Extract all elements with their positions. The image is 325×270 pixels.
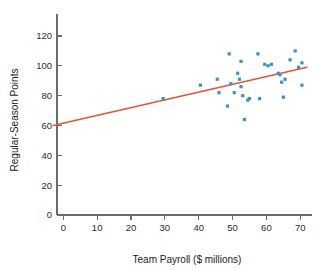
x-tick-label-60: 60: [261, 222, 272, 233]
axes: [57, 14, 312, 215]
data-point-19: [266, 64, 269, 67]
x-tick-label-70: 70: [295, 222, 306, 233]
y-tick-label-80: 80: [41, 90, 52, 101]
chart-canvas: 020406080100120010203040506070 Team Payr…: [0, 0, 325, 270]
data-point-22: [278, 73, 281, 76]
scatter-plot-figure: 020406080100120010203040506070 Team Payr…: [0, 0, 325, 270]
x-axis-title: Team Payroll ($ millions): [133, 254, 242, 265]
data-point-10: [239, 60, 242, 63]
data-point-1: [199, 84, 202, 87]
data-point-0: [162, 97, 165, 100]
data-point-29: [300, 61, 303, 64]
y-tick-label-40: 40: [41, 150, 52, 161]
y-tick-label-20: 20: [41, 180, 52, 191]
data-point-6: [229, 82, 232, 85]
data-points: [162, 49, 304, 121]
data-point-16: [256, 52, 259, 55]
data-point-13: [243, 118, 246, 121]
data-point-12: [241, 94, 244, 97]
y-tick-label-120: 120: [36, 30, 52, 41]
data-point-30: [300, 84, 303, 87]
x-tick-label-40: 40: [193, 222, 204, 233]
data-point-26: [288, 58, 291, 61]
data-point-15: [248, 97, 251, 100]
y-axis-title: Regular-Season Points: [9, 69, 20, 172]
data-point-2: [216, 78, 219, 81]
x-tick-label-10: 10: [92, 222, 103, 233]
data-point-9: [238, 78, 241, 81]
data-point-5: [228, 52, 231, 55]
data-point-11: [239, 85, 242, 88]
x-tick-label-30: 30: [160, 222, 171, 233]
axis-tick-labels: 020406080100120010203040506070: [36, 30, 305, 233]
data-point-24: [282, 96, 285, 99]
data-point-20: [270, 63, 273, 66]
data-point-17: [258, 97, 261, 100]
data-point-25: [283, 78, 286, 81]
data-point-7: [233, 91, 236, 94]
y-tick-label-100: 100: [36, 60, 52, 71]
y-tick-label-0: 0: [47, 209, 52, 220]
data-point-4: [226, 104, 229, 107]
y-tick-label-60: 60: [41, 120, 52, 131]
regression-line: [53, 67, 307, 125]
data-point-8: [236, 72, 239, 75]
data-point-18: [263, 63, 266, 66]
data-point-3: [217, 91, 220, 94]
trend-line: [53, 67, 307, 125]
x-tick-label-20: 20: [126, 222, 137, 233]
data-point-23: [280, 81, 283, 84]
data-point-28: [297, 66, 300, 69]
x-tick-label-50: 50: [227, 222, 238, 233]
data-point-27: [294, 49, 297, 52]
x-tick-label-0: 0: [61, 222, 66, 233]
